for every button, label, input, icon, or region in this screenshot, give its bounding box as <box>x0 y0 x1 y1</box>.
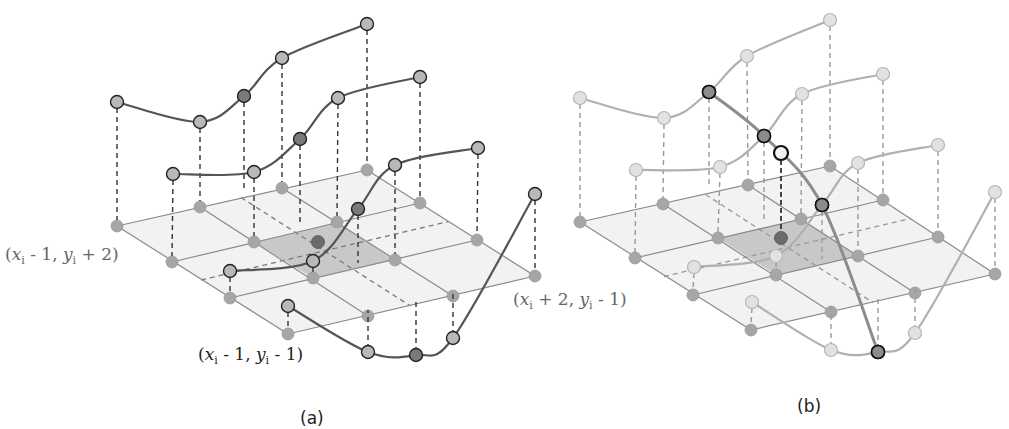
control-point <box>276 52 289 65</box>
grid-node <box>989 268 1001 280</box>
spline-curve <box>117 24 367 122</box>
control-point <box>741 50 754 63</box>
grid-node <box>745 324 757 336</box>
control-point <box>658 112 671 125</box>
figure-canvas <box>0 0 1009 429</box>
control-point <box>825 344 838 357</box>
control-point <box>932 139 945 152</box>
grid-node <box>657 198 669 210</box>
control-point <box>361 18 374 31</box>
control-point <box>852 157 865 170</box>
control-point <box>282 300 295 313</box>
grid-node <box>852 250 864 262</box>
control-point <box>529 188 542 201</box>
grid-node <box>361 164 373 176</box>
control-point <box>746 296 759 309</box>
control-point <box>447 332 460 345</box>
drop-line <box>635 176 636 252</box>
control-point <box>294 133 307 146</box>
query-center-point <box>312 236 325 249</box>
grid-node <box>877 194 889 206</box>
control-point <box>362 346 375 359</box>
control-point <box>238 90 251 103</box>
caption-a: (a) <box>300 408 324 428</box>
coordinate-label: (xi - 1, yi + 2) <box>5 244 119 267</box>
grid-node <box>824 160 836 172</box>
control-point <box>332 92 345 105</box>
spline-curve <box>636 74 883 170</box>
control-point <box>770 250 783 263</box>
panel-a-diagram <box>111 18 542 362</box>
control-point <box>630 164 643 177</box>
control-point <box>688 261 701 274</box>
control-point <box>307 255 320 268</box>
grid-node <box>224 292 236 304</box>
control-point <box>714 161 727 174</box>
control-point <box>352 203 365 216</box>
control-point <box>389 159 402 172</box>
grid-node <box>471 234 483 246</box>
control-point <box>224 265 237 278</box>
panel-b-diagram <box>574 14 1002 359</box>
control-point <box>796 88 809 101</box>
grid-node <box>742 179 754 191</box>
drop-line <box>172 180 173 256</box>
control-point <box>824 14 837 27</box>
grid-node <box>248 236 260 248</box>
grid-node <box>770 269 782 281</box>
control-point <box>194 116 207 129</box>
coordinate-label: (xi - 1, yi - 1) <box>198 344 303 367</box>
control-point <box>410 349 423 362</box>
control-point <box>877 68 890 81</box>
control-point <box>574 92 587 105</box>
coordinate-label: (xi + 2, yi - 1) <box>513 289 627 312</box>
intermediate-point <box>816 199 829 212</box>
interpolated-point <box>774 146 788 160</box>
spline-curve <box>173 77 420 175</box>
grid-node <box>194 201 206 213</box>
grid-node <box>795 213 807 225</box>
control-point <box>248 166 261 179</box>
grid-node <box>687 289 699 301</box>
grid-node <box>276 182 288 194</box>
control-point <box>414 71 427 84</box>
grid-node <box>712 232 724 244</box>
caption-b: (b) <box>797 396 821 416</box>
grid-node <box>282 328 294 340</box>
drop-line <box>477 154 478 234</box>
control-point <box>167 168 180 181</box>
grid-node <box>932 231 944 243</box>
intermediate-point <box>872 346 885 359</box>
grid-node <box>414 197 426 209</box>
control-point <box>472 142 485 155</box>
grid-node <box>574 216 586 228</box>
grid-node <box>307 272 319 284</box>
intermediate-point <box>703 86 716 99</box>
control-point <box>111 96 124 109</box>
control-point <box>989 186 1002 199</box>
intermediate-point <box>758 130 771 143</box>
grid-node <box>389 254 401 266</box>
grid-node <box>529 270 541 282</box>
control-point <box>909 327 922 340</box>
spline-curve <box>580 20 830 118</box>
grid-node <box>166 256 178 268</box>
grid-node <box>111 220 123 232</box>
query-center-point <box>775 232 788 245</box>
drop-line <box>663 124 664 198</box>
grid-node <box>331 216 343 228</box>
grid-node <box>629 252 641 264</box>
